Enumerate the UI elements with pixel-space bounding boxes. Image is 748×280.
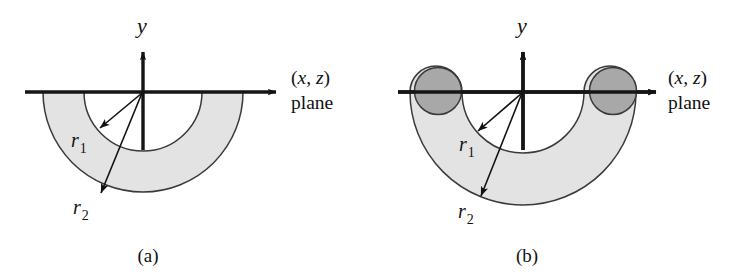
- caption-a: (a): [137, 245, 158, 267]
- caption-b: (b): [516, 245, 538, 267]
- r2-label-b: r2: [458, 200, 474, 227]
- y-axis-label-a: y: [135, 13, 147, 38]
- technical-figure: y (x, z) plane r1 r2 (a): [0, 0, 748, 280]
- panel-a: y (x, z) plane r1 r2 (a): [25, 13, 333, 267]
- y-axis-label-b: y: [515, 13, 527, 38]
- r1-leader-b: [478, 93, 522, 131]
- figure-root: y (x, z) plane r1 r2 (a): [0, 0, 748, 280]
- xz-plane-label-line1-b: (x, z): [668, 67, 707, 89]
- xz-plane-label-line2-a: plane: [291, 92, 333, 113]
- xz-plane-label-line2-b: plane: [668, 92, 710, 113]
- r2-label-a: r2: [73, 196, 89, 223]
- xz-plane-label-line1-a: (x, z): [291, 67, 330, 89]
- r1-leader-a: [100, 93, 142, 128]
- panel-b: y (x, z) plane r1 r2 (b): [398, 13, 710, 267]
